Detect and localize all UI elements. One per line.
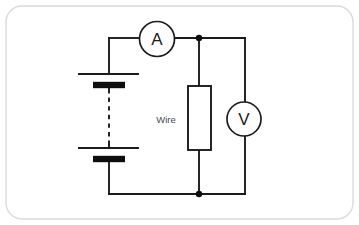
voltmeter-label: V [238,110,250,129]
resistor-label: Wire [156,114,176,125]
resistor-box[interactable] [188,86,211,150]
bottom-junction-dot [196,191,202,197]
top-junction-dot [196,35,202,41]
ammeter[interactable]: A [140,22,175,57]
voltmeter[interactable]: V [227,102,261,136]
circuit-diagram: A Wire V [0,0,359,225]
ammeter-label: A [151,30,163,49]
wire-resistor[interactable] [188,86,211,150]
circuit-canvas: A Wire V [0,0,359,225]
